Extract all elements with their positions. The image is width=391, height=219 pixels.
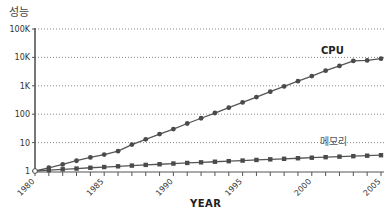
- svg-text:1995: 1995: [223, 177, 244, 198]
- svg-text:1985: 1985: [85, 177, 106, 198]
- svg-text:2005: 2005: [362, 177, 383, 198]
- svg-text:100: 100: [15, 110, 30, 119]
- svg-text:1K: 1K: [20, 82, 31, 91]
- svg-text:2000: 2000: [292, 177, 313, 198]
- x-axis-title: YEAR: [190, 198, 222, 209]
- svg-text:10K: 10K: [15, 53, 31, 62]
- series-label-cpu: CPU: [321, 45, 344, 56]
- performance-chart: 1101001K10K100K 198019851990199520002005: [0, 0, 391, 219]
- x-axis-ticks: 198019851990199520002005: [16, 172, 383, 198]
- series-label-memory: 메모리: [320, 133, 347, 148]
- svg-text:1990: 1990: [154, 177, 175, 198]
- svg-text:10: 10: [20, 139, 30, 148]
- data-series: [33, 56, 384, 173]
- svg-text:1: 1: [25, 167, 30, 176]
- y-axis-title: 성능: [9, 3, 29, 19]
- svg-text:1980: 1980: [16, 177, 37, 198]
- svg-text:100K: 100K: [9, 25, 30, 34]
- y-axis-ticks: 1101001K10K100K: [9, 25, 35, 176]
